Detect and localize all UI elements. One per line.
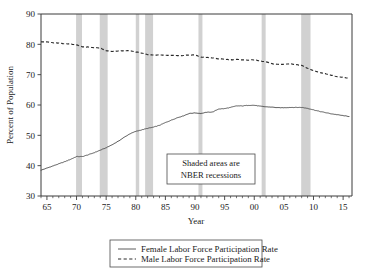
y-tick-label: 80 [26,40,36,50]
x-tick-label: 65 [42,202,52,212]
y-tick-label: 50 [26,131,36,141]
y-axis-label: Percent of Population [5,66,15,144]
x-tick-label: 70 [72,202,82,212]
x-tick-label: 95 [220,202,230,212]
legend-label-female: Female Labor Force Participation Rate [141,244,278,254]
recession-band [76,14,82,196]
y-tick-label: 30 [26,191,36,201]
x-tick-label: 15 [339,202,349,212]
recession-band [136,14,139,196]
annotation-line-2: NBER recessions [181,170,242,180]
y-tick-label: 60 [26,100,36,110]
x-tick-label: 85 [161,202,171,212]
chart-figure: 30405060708090 6570758085909500051015 Sh… [0,0,367,275]
x-tick-label: 00 [250,202,260,212]
labor-force-participation-chart: 30405060708090 6570758085909500051015 Sh… [0,0,367,275]
recession-band [145,14,153,196]
legend-label-male: Male Labor Force Participation Rate [141,254,270,264]
y-tick-label: 90 [26,9,36,19]
recession-band [100,14,108,196]
figure-background [0,0,367,275]
x-tick-label: 80 [131,202,141,212]
annotation-line-1: Shaded areas are [182,158,240,168]
x-axis-label: Year [188,216,205,226]
chart-legend: Female Labor Force Participation Rate Ma… [110,240,278,267]
recession-band [262,14,266,196]
x-tick-label: 90 [191,202,201,212]
x-tick-label: 75 [102,202,112,212]
recession-band [301,14,310,196]
x-tick-label: 05 [279,202,289,212]
y-tick-label: 70 [26,70,36,80]
x-tick-label: 10 [309,202,319,212]
y-tick-label: 40 [26,161,36,171]
annotation-group: Shaded areas are NBER recessions [167,154,255,184]
